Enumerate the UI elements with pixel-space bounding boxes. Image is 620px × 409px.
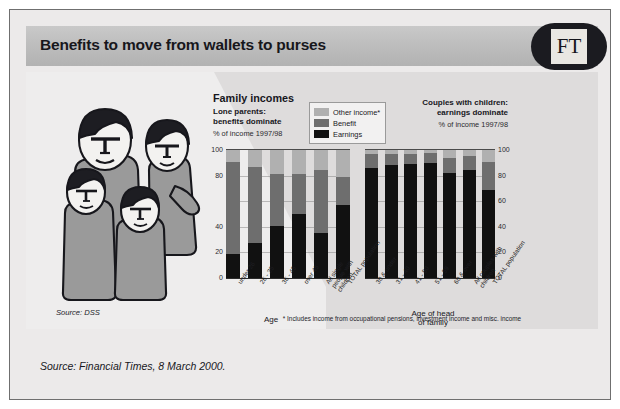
legend-item-earnings: Earnings — [314, 129, 380, 139]
left-chart-subtitle-2: benefits dominate — [213, 117, 281, 126]
screenshot-root: Benefits to move from wallets to purses … — [0, 0, 620, 409]
y-tick-label-40: 40 — [498, 223, 506, 230]
y-tick-label-0: 0 — [219, 274, 223, 281]
y-tick-label-60: 60 — [498, 197, 506, 204]
bar-segment-benefit — [336, 177, 350, 205]
bar-segment-benefit — [292, 174, 306, 214]
y-tick-label-100: 100 — [498, 146, 510, 153]
family-illustration — [47, 100, 212, 305]
legend-swatch-earnings — [314, 130, 329, 138]
bar-segment-earnings — [226, 254, 240, 278]
legend-item-benefit: Benefit — [314, 118, 380, 128]
bar-segment-benefit — [226, 162, 240, 254]
chart-panel: Family incomes Lone parents: benefits do… — [26, 72, 598, 329]
legend-label-benefit: Benefit — [333, 119, 356, 128]
chart-footnote: * Includes income from occupational pens… — [206, 315, 598, 322]
left-chart-plot: 0204080100 — [226, 150, 350, 278]
right-chart-title-1: Couples with children: — [422, 98, 508, 107]
ft-logo-text: FT — [557, 36, 582, 57]
ft-logo: FT — [531, 23, 607, 70]
y-tick-label-40: 40 — [215, 223, 223, 230]
bar-segment-other-income — [270, 150, 284, 174]
left-chart-title: Family incomes — [213, 92, 294, 104]
left-chart-units: % of income 1997/98 — [213, 129, 282, 138]
bar-4 — [314, 150, 328, 278]
legend-label-earnings: Earnings — [333, 130, 362, 139]
bar-segment-benefit — [404, 154, 417, 164]
bar-segment-other-income — [226, 150, 240, 162]
legend-item-other_income: Other income* — [314, 107, 380, 117]
bar-segment-benefit — [482, 162, 495, 190]
bar-group — [226, 150, 350, 278]
bar-segment-other-income — [292, 150, 306, 174]
right-chart-units: % of income 1997/98 — [439, 120, 508, 129]
bar-segment-benefit — [314, 170, 328, 233]
right-chart-title-2: earnings dominate — [437, 108, 508, 117]
bar-segment-benefit — [424, 153, 437, 163]
y-tick-label-100: 100 — [211, 146, 223, 153]
bar-segment-benefit — [365, 154, 378, 168]
page-source: Source: Financial Times, 8 March 2000. — [40, 360, 226, 372]
bar-1 — [248, 150, 262, 278]
bar-segment-benefit — [463, 156, 476, 170]
ft-logo-square: FT — [551, 29, 587, 64]
bar-segment-other-income — [443, 150, 456, 158]
legend-label-other_income: Other income* — [333, 108, 380, 117]
bar-segment-other-income — [336, 150, 350, 177]
y-tick-label-80: 80 — [498, 172, 506, 179]
bar-segment-other-income — [248, 150, 262, 167]
bar-segment-other-income — [314, 150, 328, 170]
y-tick-label-20: 20 — [215, 248, 223, 255]
bar-segment-benefit — [443, 158, 456, 173]
legend-swatch-benefit — [314, 119, 329, 127]
bar-segment-benefit — [270, 174, 284, 225]
bar-segment-other-income — [482, 150, 495, 162]
y-tick-label-80: 80 — [215, 172, 223, 179]
left-chart-subtitle-1: Lone parents: — [213, 107, 266, 116]
bar-segment-benefit — [248, 167, 262, 244]
chart-source: Source: DSS — [56, 308, 100, 317]
chart-legend: Other income*BenefitEarnings — [309, 102, 386, 144]
page-title: Benefits to move from wallets to purses — [40, 36, 326, 54]
legend-swatch-other_income — [314, 108, 329, 116]
bar-0 — [226, 150, 240, 278]
bar-segment-benefit — [385, 154, 398, 166]
article-card: Benefits to move from wallets to purses … — [9, 9, 611, 400]
